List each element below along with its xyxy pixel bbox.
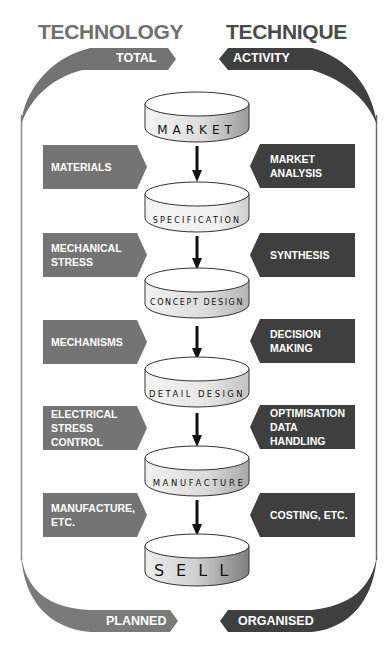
stage-concept-design: CONCEPT DESIGN (143, 266, 251, 322)
box-line1: OPTIMISATION (270, 406, 355, 420)
box-line1: MECHANICAL (51, 241, 122, 255)
box-line1: ELECTRICAL (51, 407, 147, 421)
box-line1: COSTING, ETC. (270, 508, 348, 522)
band-organised-label: ORGANISED (238, 614, 314, 628)
stage-sell: SELL (143, 532, 251, 592)
stage-label: DETAIL DESIGN (149, 389, 245, 399)
stage-label: CONCEPT DESIGN (150, 298, 244, 307)
technique-box-decision-making: DECISIONMAKING (250, 319, 355, 363)
box-line2: STRESS CONTROL (51, 421, 147, 449)
technology-box-manufacture: MANUFACTURE,ETC. (43, 493, 147, 537)
box-line1: MARKET (270, 152, 322, 166)
technology-box-materials: MATERIALS (43, 145, 147, 189)
box-line2: DATA HANDLING (270, 420, 355, 448)
band-total-label: TOTAL (116, 51, 157, 65)
technology-box-electrical-stress-control: ELECTRICALSTRESS CONTROL (43, 406, 147, 450)
stage-label: SELL (154, 561, 240, 580)
box-line2: STRESS (51, 255, 122, 269)
band-planned-label: PLANNED (106, 614, 166, 628)
stage-market: MARKET (143, 90, 251, 146)
stage-specification: SPECIFICATION (143, 180, 251, 236)
technique-box-market-analysis: MARKETANALYSIS (250, 144, 355, 188)
stage-label: SPECIFICATION (153, 216, 241, 225)
box-line1: MANUFACTURE, (51, 501, 135, 515)
box-line1: DECISION (270, 327, 321, 341)
box-line1: MECHANISMS (51, 335, 123, 349)
technique-box-optimisation: OPTIMISATIONDATA HANDLING (250, 405, 355, 449)
box-line2: MAKING (270, 341, 321, 355)
stage-manufacture: MANUFACTURE (143, 444, 251, 500)
band-activity-label: ACTIVITY (233, 51, 290, 65)
stage-label: MANUFACTURE (153, 478, 246, 488)
stage-detail-design: DETAIL DESIGN (143, 355, 251, 411)
technique-box-synthesis: SYNTHESIS (250, 233, 355, 277)
box-line2: ETC. (51, 515, 135, 529)
box-line2: ANALYSIS (270, 166, 322, 180)
box-line1: SYNTHESIS (270, 248, 330, 262)
box-line1: MATERIALS (51, 160, 111, 174)
technique-box-costing: COSTING, ETC. (250, 493, 355, 537)
technology-box-mechanisms: MECHANISMS (43, 320, 147, 364)
stage-label: MARKET (157, 123, 237, 137)
technology-box-mechanical-stress: MECHANICALSTRESS (43, 233, 147, 277)
